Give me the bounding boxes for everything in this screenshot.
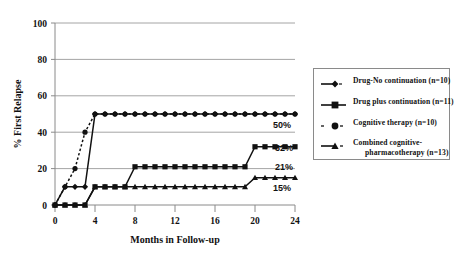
data-point <box>262 144 267 149</box>
endpoint-label-50: 50% <box>273 120 291 130</box>
x-tick-label-4: 4 <box>93 216 98 226</box>
data-point <box>232 164 237 169</box>
y-tick-label-80: 80 <box>38 55 48 65</box>
x-tick-label-8: 8 <box>133 216 138 226</box>
data-point <box>182 164 187 169</box>
y-axis-title: % First Relapse <box>12 79 23 148</box>
legend-item-combined-cognitive-pharmacotherapy[interactable]: Combined cognitive- pharmacotherapy (n=1… <box>320 138 449 157</box>
data-point <box>212 164 217 169</box>
series-line <box>55 114 295 205</box>
data-point <box>222 111 227 116</box>
endpoint-label-32: 32% <box>275 143 293 153</box>
data-point <box>292 111 297 116</box>
chart-legend: Drug-No continuation (n=10) Drug plus co… <box>313 68 450 160</box>
x-tick-label-20: 20 <box>250 216 260 226</box>
x-tick-label-24: 24 <box>290 216 300 226</box>
x-axis-title: Months in Follow-up <box>130 234 220 245</box>
series-1 <box>52 111 298 208</box>
data-point <box>162 164 167 169</box>
data-point <box>192 111 197 116</box>
data-point <box>192 164 197 169</box>
x-axis <box>55 205 295 212</box>
triangle-icon <box>320 138 350 150</box>
y-tick-label-0: 0 <box>42 201 47 211</box>
data-point <box>92 111 97 116</box>
data-point <box>162 111 167 116</box>
data-point <box>292 144 297 149</box>
legend-item-drug-no-continuation[interactable]: Drug-No continuation (n=10) <box>320 76 450 88</box>
y-tick-label-20: 20 <box>38 164 48 174</box>
x-tick-label-0: 0 <box>53 216 58 226</box>
y-tick-label-100: 100 <box>33 19 48 29</box>
data-point <box>272 111 277 116</box>
data-point <box>202 164 207 169</box>
series-line <box>55 114 295 205</box>
data-point <box>252 111 257 116</box>
legend-label-combined-cognitive-pharmacotherapy: Combined cognitive- pharmacotherapy (n=1… <box>353 138 449 157</box>
data-point <box>172 164 177 169</box>
data-point <box>82 130 87 135</box>
data-point <box>142 111 147 116</box>
series-4 <box>52 175 298 208</box>
y-tick-label-60: 60 <box>38 91 48 101</box>
data-point <box>72 184 78 190</box>
data-point <box>82 184 88 190</box>
data-point <box>182 111 187 116</box>
data-point <box>152 111 157 116</box>
data-point <box>152 164 157 169</box>
relapse-survival-figure: 100 80 60 40 20 0 0 4 8 12 16 20 24 % Fi… <box>0 0 455 266</box>
data-point <box>142 164 147 169</box>
data-point <box>282 111 287 116</box>
legend-item-cognitive-therapy[interactable]: Cognitive therapy (n=10) <box>320 118 437 130</box>
data-point <box>132 111 137 116</box>
endpoint-label-15: 15% <box>273 183 291 193</box>
data-point <box>172 111 177 116</box>
data-point <box>132 164 137 169</box>
circle-icon <box>320 118 350 130</box>
legend-label-drug-no-continuation: Drug-No continuation (n=10) <box>353 76 450 86</box>
data-point <box>222 164 227 169</box>
legend-label-cognitive-therapy: Cognitive therapy (n=10) <box>353 118 437 128</box>
square-icon <box>320 97 350 109</box>
legend-label-combined-line2: pharmacotherapy (n=13) <box>353 148 449 158</box>
x-tick-label-16: 16 <box>210 216 220 226</box>
data-point <box>62 184 67 189</box>
legend-label-combined-line1: Combined cognitive- <box>353 138 422 147</box>
y-tick-label-40: 40 <box>38 128 48 138</box>
data-point <box>232 111 237 116</box>
data-point <box>102 111 107 116</box>
diamond-icon <box>320 76 350 88</box>
y-axis <box>51 23 55 205</box>
legend-item-drug-plus-continuation[interactable]: Drug plus continuation (n=11) <box>320 97 454 109</box>
data-point <box>252 144 257 149</box>
data-point <box>122 111 127 116</box>
data-point <box>242 111 247 116</box>
series-line <box>55 147 295 205</box>
series-line <box>55 178 295 205</box>
data-point <box>202 111 207 116</box>
chart-screenshot: 100 80 60 40 20 0 0 4 8 12 16 20 24 % Fi… <box>0 0 455 266</box>
data-point <box>242 164 247 169</box>
endpoint-label-21: 21% <box>275 162 293 172</box>
legend-label-drug-plus-continuation: Drug plus continuation (n=11) <box>353 97 454 107</box>
data-point <box>72 166 77 171</box>
x-tick-label-12: 12 <box>170 216 180 226</box>
data-point <box>212 111 217 116</box>
data-series-layer <box>52 111 298 208</box>
data-point <box>112 111 117 116</box>
data-point <box>262 111 267 116</box>
